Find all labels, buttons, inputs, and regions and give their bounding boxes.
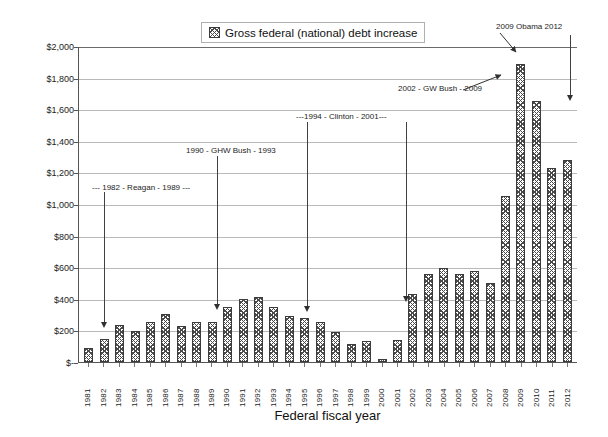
bar-slot [158,47,173,362]
x-tick-mark [196,363,197,367]
x-tick-mark [165,363,166,367]
x-tick-mark [304,363,305,367]
x-tick: 1987 [173,365,188,407]
x-tick-mark [103,363,104,367]
arrowhead-ghw-bush [214,304,220,310]
bar-slot [235,47,250,362]
x-tick-mark [211,363,212,367]
bar-slot [498,47,513,362]
x-tick: 1999 [358,365,373,407]
x-tick: 2002 [405,365,420,407]
y-tick-mark [74,110,78,111]
y-tick-mark [74,142,78,143]
bar-slot [328,47,343,362]
x-tick: 2008 [498,365,513,407]
x-tick: 1994 [281,365,296,407]
y-tick-label: $800 [12,233,74,242]
x-tick-label: 2005 [454,365,463,407]
x-tick-label: 1992 [253,365,262,407]
x-tick-label: 1990 [222,365,231,407]
x-tick: 1988 [188,365,203,407]
y-tick-mark [74,173,78,174]
bar-1983 [115,325,124,362]
x-tick-label: 2006 [470,365,479,407]
x-tick-mark [181,363,182,367]
x-tick-mark [289,363,290,367]
bar-1991 [239,299,248,362]
bar-slot [544,47,559,362]
bar-slot [251,47,266,362]
x-tick-label: 1984 [130,365,139,407]
bar-slot [127,47,142,362]
x-tick-mark [552,363,553,367]
y-tick-label: $600 [12,264,74,273]
x-tick-label: 2009 [516,365,525,407]
y-tick-label: $1,200 [12,169,74,178]
x-tick: 1995 [297,365,312,407]
x-tick-label: 1982 [99,365,108,407]
bar-1999 [362,341,371,362]
y-tick-label: $2,000 [12,43,74,52]
x-tick: 2011 [544,365,559,407]
bar-1988 [192,322,201,362]
bar-slot [452,47,467,362]
x-tick-label: 1997 [331,365,340,407]
x-tick-label: 1991 [238,365,247,407]
y-tick-label: $- [12,359,74,368]
y-tick-label: $1,000 [12,201,74,210]
x-tick-label: 1985 [145,365,154,407]
bar-1987 [177,326,186,362]
x-tick-mark [536,363,537,367]
bar-1982 [100,339,109,362]
leader-line-obama [570,35,571,97]
bar-2006 [470,271,479,362]
y-tick-mark [74,331,78,332]
bar-1994 [285,316,294,362]
bar-series [79,47,577,362]
bar-slot [359,47,374,362]
x-tick-mark [273,363,274,367]
x-tick-mark [428,363,429,367]
x-tick-label: 1983 [114,365,123,407]
x-tick-mark [567,363,568,367]
x-axis-title: Federal fiscal year [78,408,577,423]
x-tick-label: 1989 [207,365,216,407]
y-tick-label: $200 [12,327,74,336]
bar-slot [513,47,528,362]
bar-slot [467,47,482,362]
legend-label: Gross federal (national) debt increase [225,27,417,39]
x-tick: 1993 [266,365,281,407]
x-tick-mark [382,363,383,367]
x-tick: 2012 [560,365,575,407]
x-tick: 1985 [142,365,157,407]
y-tick-mark [74,300,78,301]
bar-slot [482,47,497,362]
bar-slot [220,47,235,362]
y-tick-mark [74,47,78,48]
bar-2010 [532,101,541,362]
y-tick-mark [74,363,78,364]
x-tick: 1989 [204,365,219,407]
bar-1992 [254,297,263,362]
bar-1995 [300,318,309,362]
x-tick-mark [505,363,506,367]
bar-2012 [563,160,572,362]
x-tick-label: 1995 [300,365,309,407]
y-tick-mark [74,79,78,80]
x-tick-label: 2004 [439,365,448,407]
y-tick-label: $1,400 [12,138,74,147]
bar-1985 [146,322,155,362]
x-tick-mark [397,363,398,367]
bar-1984 [131,331,140,362]
bar-1990 [223,307,232,362]
bar-slot [81,47,96,362]
plot-area [78,47,577,363]
arrowhead-clinton [304,306,310,312]
leader-line-clinton-end [406,122,407,298]
x-tick: 1984 [126,365,141,407]
bar-slot [374,47,389,362]
x-tick-mark [474,363,475,367]
bar-1993 [269,307,278,362]
x-tick-label: 1993 [269,365,278,407]
bar-2004 [439,268,448,362]
